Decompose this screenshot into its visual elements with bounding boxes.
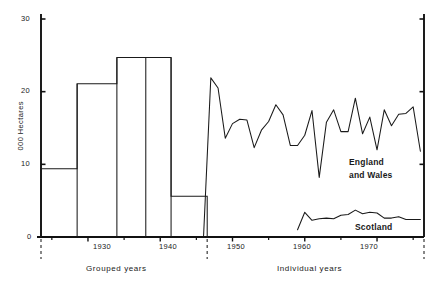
series-label-scotland: Scotland — [355, 223, 393, 232]
series-label-england-wales-line1: England — [349, 158, 384, 167]
x-tick-label-1950: 1950 — [227, 243, 245, 251]
x-tick-label-1930: 1930 — [93, 243, 111, 251]
series-grouped-years-bars — [41, 58, 207, 237]
x-tick-label-1960: 1960 — [293, 243, 311, 251]
section-label-grouped-years: Grouped years — [86, 265, 147, 273]
x-tick-label-1940: 1940 — [159, 243, 177, 251]
x-tick-label-1970: 1970 — [360, 243, 378, 251]
chart-canvas — [0, 0, 443, 282]
y-tick-label-30: 30 — [21, 15, 30, 23]
y-tick-label-20: 20 — [21, 87, 30, 95]
y-tick-label-10: 10 — [21, 160, 30, 168]
series-label-england-wales-line2: and Wales — [349, 171, 393, 180]
chart-figure: 000 Hectares 30 20 10 0 1930 1940 1950 1… — [0, 0, 443, 282]
y-tick-label-0: 0 — [27, 233, 31, 241]
y-axis-title: 000 Hectares — [17, 91, 25, 161]
series-line-england-and-wales — [204, 78, 421, 236]
section-label-individual-years: Individual years — [277, 265, 342, 273]
